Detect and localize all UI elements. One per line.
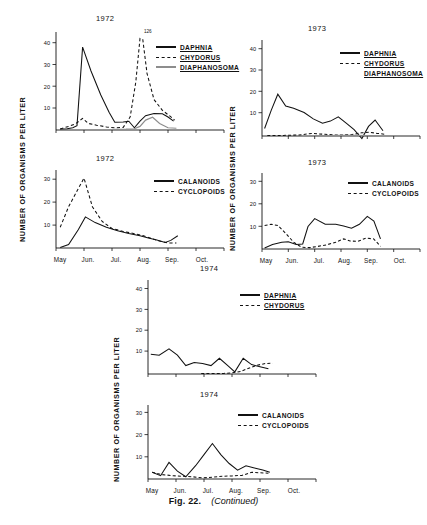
legend-label-cyclopoids: CYCLOPOIDS (178, 188, 225, 195)
svg-text:Oct.: Oct. (196, 256, 209, 263)
svg-text:Jun.: Jun. (286, 257, 299, 264)
legend-label-daphnia: DAPHNIA (180, 44, 213, 51)
legend-copepoda-1973: CALANOIDS CYCLOPOIDS (348, 178, 419, 198)
chart-title-1973-copepoda: 1973 (308, 158, 326, 167)
legend-cladocera-1973: DAPHNIA CHYDORUS DIAPHANOSOMA (340, 48, 423, 78)
legend-swatch-daphnia (156, 46, 176, 47)
svg-text:30: 30 (44, 176, 50, 182)
svg-text:May: May (54, 256, 67, 264)
svg-text:Aug.: Aug. (338, 257, 352, 265)
peak-annotation-1972: 126 (144, 29, 152, 34)
svg-text:Jun.: Jun. (174, 487, 187, 494)
legend-label-cyclopoids: CYCLOPOIDS (262, 422, 309, 429)
svg-text:20: 20 (250, 201, 256, 207)
legend-label-chydorus: CHYDORUS (180, 54, 221, 61)
y-axis-label-1974: NUMBER OF ORGANISMS PER LITER (112, 282, 121, 482)
legend-item-daphnia: DAPHNIA (240, 290, 305, 300)
svg-text:10: 10 (136, 454, 142, 460)
legend-swatch-cyclopoids (154, 191, 174, 192)
legend-item-diaphanosoma: DIAPHANOSOMA (156, 62, 239, 72)
svg-text:Aug.: Aug. (229, 487, 243, 495)
svg-text:20: 20 (44, 84, 50, 90)
legend-item-diaphanosoma: DIAPHANOSOMA (340, 68, 423, 78)
chart-title-1973-cladocera: 1973 (308, 24, 326, 33)
legend-label-calanoids: CALANOIDS (178, 178, 220, 185)
svg-text:40: 40 (250, 46, 256, 52)
svg-text:40: 40 (136, 286, 142, 292)
legend-label-diaphanosoma: DIAPHANOSOMA (364, 70, 423, 77)
legend-item-chydorus: CHYDORUS (156, 52, 239, 62)
legend-item-daphnia: DAPHNIA (340, 48, 423, 58)
legend-cladocera-1972: DAPHNIA CHYDORUS DIAPHANOSOMA (156, 42, 239, 72)
svg-text:30: 30 (44, 62, 50, 68)
svg-text:Oct.: Oct. (394, 257, 407, 264)
legend-label-calanoids: CALANOIDS (262, 412, 304, 419)
legend-swatch-calanoids (238, 414, 258, 415)
chart-title-1974-copepoda: 1974 (200, 390, 218, 399)
legend-swatch-diaphanosoma (340, 72, 360, 73)
legend-swatch-chydorus (340, 63, 360, 64)
legend-item-calanoids: CALANOIDS (154, 176, 225, 186)
svg-text:Sep.: Sep. (257, 487, 271, 495)
legend-swatch-daphnia (340, 52, 360, 53)
legend-swatch-calanoids (154, 180, 174, 181)
svg-text:30: 30 (250, 179, 256, 185)
panel-group-1973: NUMBER OF ORGANISMS PER LITER 1973 40 30 (228, 24, 427, 262)
legend-item-chydorus: CHYDORUS (340, 58, 423, 68)
svg-text:20: 20 (250, 89, 256, 95)
svg-text:20: 20 (136, 432, 142, 438)
figure-caption-label: Fig. 22. (169, 496, 202, 506)
legend-label-daphnia: DAPHNIA (264, 292, 297, 299)
svg-text:Aug.: Aug. (137, 256, 151, 264)
svg-text:20: 20 (136, 327, 142, 333)
legend-swatch-chydorus (240, 305, 260, 306)
chart-title-1972-copepoda: 1972 (96, 154, 114, 163)
svg-text:10: 10 (250, 224, 256, 230)
legend-label-chydorus: CHYDORUS (264, 302, 305, 309)
chart-title-1972-cladocera: 1972 (96, 14, 114, 23)
panel-group-1974: NUMBER OF ORGANISMS PER LITER 1974 40 30 (112, 264, 322, 499)
svg-text:40: 40 (44, 40, 50, 46)
legend-swatch-cyclopoids (238, 425, 258, 426)
svg-text:30: 30 (136, 410, 142, 416)
legend-swatch-daphnia (240, 294, 260, 295)
svg-text:May: May (146, 487, 159, 495)
svg-text:Jul.: Jul. (314, 257, 325, 264)
svg-text:Sep.: Sep. (165, 256, 179, 264)
figure-22: NUMBER OF ORGANISMS PER LITER 1972 40 (0, 0, 427, 525)
legend-item-chydorus: CHYDORUS (240, 300, 305, 310)
legend-cladocera-1974: DAPHNIA CHYDORUS (240, 290, 305, 310)
legend-swatch-calanoids (348, 182, 368, 183)
y-axis-label-1972: NUMBER OF ORGANISMS PER LITER (18, 42, 27, 242)
svg-text:Jul.: Jul. (111, 256, 122, 263)
svg-text:Jun.: Jun. (82, 256, 95, 263)
svg-text:10: 10 (250, 110, 256, 116)
panel-group-1972: NUMBER OF ORGANISMS PER LITER 1972 40 (18, 14, 230, 262)
legend-item-daphnia: DAPHNIA (156, 42, 239, 52)
svg-text:Sep.: Sep. (364, 257, 378, 265)
legend-copepoda-1972: CALANOIDS CYCLOPOIDS (154, 176, 225, 196)
legend-item-cyclopoids: CYCLOPOIDS (238, 420, 309, 430)
svg-text:10: 10 (136, 348, 142, 354)
svg-text:10: 10 (44, 222, 50, 228)
svg-text:20: 20 (44, 199, 50, 205)
figure-caption-note: (Continued) (211, 496, 258, 506)
legend-copepoda-1974: CALANOIDS CYCLOPOIDS (238, 410, 309, 430)
legend-swatch-diaphanosoma (156, 66, 176, 67)
figure-caption: Fig. 22.(Continued) (0, 496, 427, 506)
legend-swatch-cyclopoids (348, 193, 368, 194)
svg-text:Oct.: Oct. (288, 487, 301, 494)
legend-item-cyclopoids: CYCLOPOIDS (154, 186, 225, 196)
legend-label-calanoids: CALANOIDS (372, 180, 414, 187)
legend-label-daphnia: DAPHNIA (364, 50, 397, 57)
svg-text:10: 10 (44, 105, 50, 111)
chart-title-1974-cladocera: 1974 (200, 264, 218, 273)
legend-item-calanoids: CALANOIDS (238, 410, 309, 420)
svg-text:30: 30 (250, 67, 256, 73)
legend-item-calanoids: CALANOIDS (348, 178, 419, 188)
legend-label-chydorus: CHYDORUS (364, 60, 405, 67)
legend-label-cyclopoids: CYCLOPOIDS (372, 190, 419, 197)
legend-swatch-chydorus (156, 57, 176, 58)
y-axis-label-1973: NUMBER OF ORGANISMS PER LITER (228, 46, 237, 251)
svg-text:Jul.: Jul. (203, 487, 214, 494)
